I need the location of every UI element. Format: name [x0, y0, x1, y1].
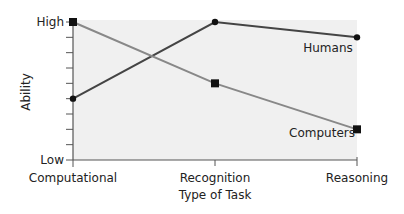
data-point-circle [212, 19, 218, 25]
series-label-humans: Humans [303, 41, 353, 55]
data-point-circle [354, 34, 360, 40]
series-label-computers: Computers [289, 126, 355, 140]
x-tick-label-reasoning: Reasoning [326, 171, 388, 185]
data-point-square [211, 79, 219, 87]
data-point-circle [70, 95, 76, 101]
data-point-square [69, 18, 77, 26]
y-axis-title: Ability [19, 73, 33, 111]
y-tick-label-low: Low [40, 153, 64, 167]
x-tick-label-computational: Computational [29, 171, 117, 185]
x-tick-label-recognition: Recognition [180, 171, 251, 185]
x-axis-title: Type of Task [178, 188, 252, 202]
line-chart: High Low Ability Type of Task Computatio… [0, 0, 404, 214]
y-tick-label-high: High [36, 15, 64, 29]
